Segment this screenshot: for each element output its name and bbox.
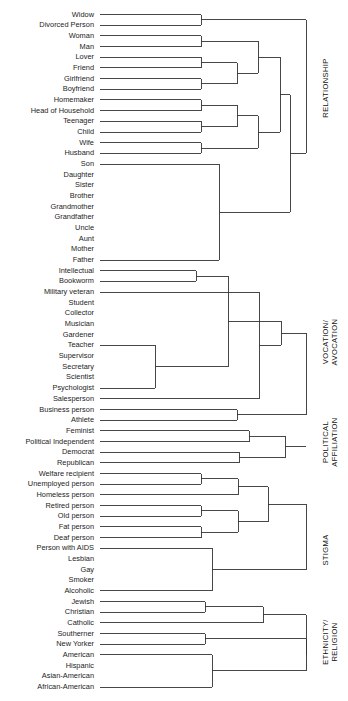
category-text: AVOCATION xyxy=(331,288,340,396)
dendrogram-tree xyxy=(0,0,348,701)
category-text: AFFILIATION xyxy=(331,410,340,474)
category-label-political: POLITICAL AFFILIATION xyxy=(322,410,339,474)
category-text: RELIGION xyxy=(331,592,340,692)
category-text: RELATIONSHIP xyxy=(322,12,331,164)
category-label-ethnicity: ETHNICITY/ RELIGION xyxy=(322,592,339,692)
category-label-vocation: VOCATION/ AVOCATION xyxy=(322,288,339,396)
dendrogram-figure: WidowDivorced PersonWomanManLoverFriendG… xyxy=(0,0,348,701)
category-label-relationship: RELATIONSHIP xyxy=(322,12,331,164)
